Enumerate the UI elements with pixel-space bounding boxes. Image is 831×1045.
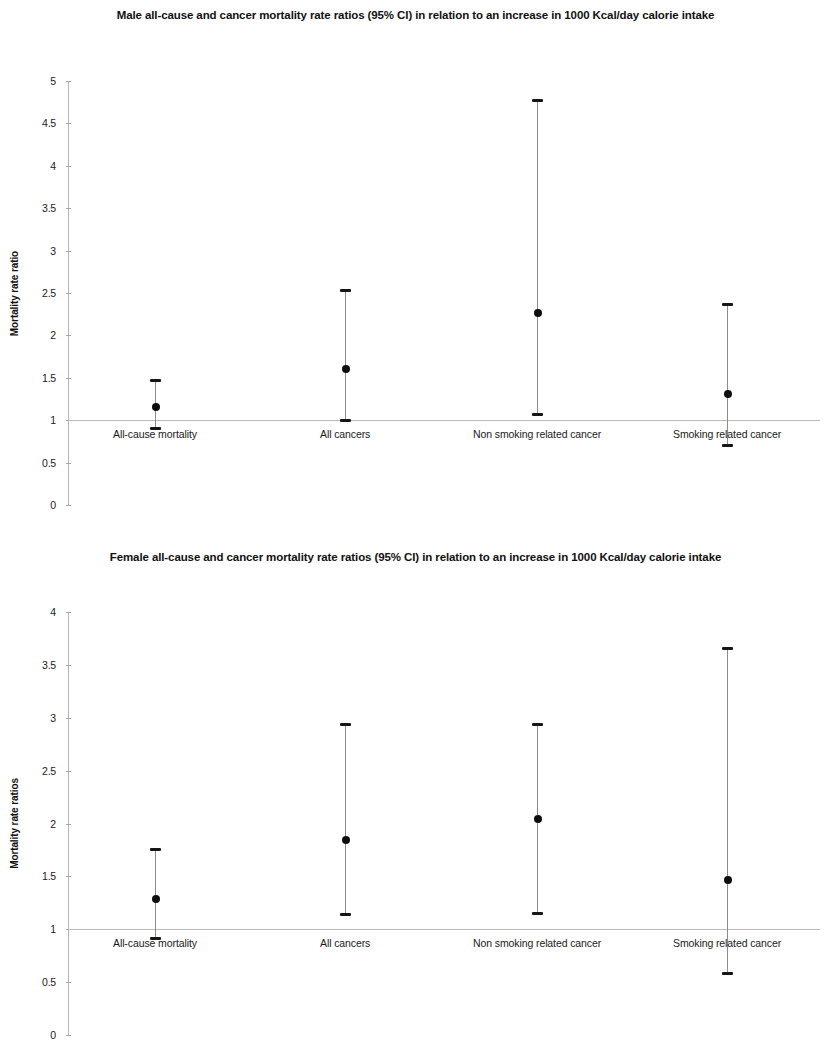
category-label: Non smoking related cancer [473, 937, 601, 949]
y-axis-tick-label: 4 [26, 607, 56, 617]
y-axis-tick-label: 1 [26, 924, 56, 934]
confidence-interval-lower-cap [532, 912, 543, 915]
y-axis-tick-label: 2.5 [26, 766, 56, 776]
y-axis-tick-label: 0.5 [26, 458, 56, 468]
confidence-interval-upper-cap [150, 379, 161, 382]
y-axis-title: Mortality rate ratios [8, 778, 19, 869]
y-axis-tick [66, 378, 71, 379]
point-estimate-marker [724, 390, 732, 398]
y-axis-tick [66, 123, 71, 124]
y-axis-tick-label: 3 [26, 713, 56, 723]
y-axis-tick-label: 3.5 [26, 660, 56, 670]
y-axis-tick [66, 1035, 71, 1036]
confidence-interval-lower-cap [340, 419, 351, 422]
confidence-interval-lower-cap [532, 413, 543, 416]
y-axis-tick [66, 718, 71, 719]
category-label: All cancers [320, 428, 370, 440]
y-axis-tick [66, 335, 71, 336]
y-axis-tick-label: 2 [26, 330, 56, 340]
point-estimate-marker [152, 403, 160, 411]
point-estimate-marker [342, 836, 350, 844]
y-axis-tick [66, 166, 71, 167]
category-label: All cancers [320, 937, 370, 949]
y-axis-title: Mortality rate ratio [9, 250, 20, 335]
point-estimate-marker [152, 895, 160, 903]
confidence-interval-lower-cap [340, 913, 351, 916]
category-label: Non smoking related cancer [473, 428, 601, 440]
y-axis-tick-label: 1.5 [26, 373, 56, 383]
confidence-interval-line [155, 849, 156, 938]
category-label: All-cause mortality [113, 428, 197, 440]
y-axis-tick [66, 982, 71, 983]
category-label: Smoking related cancer [673, 937, 781, 949]
y-axis-tick-label: 3.5 [26, 203, 56, 213]
y-axis-tick-label: 4.5 [26, 118, 56, 128]
y-axis-tick [66, 771, 71, 772]
y-axis-tick [66, 876, 71, 877]
y-axis-tick [66, 824, 71, 825]
female-mortality-chart: Female all-cause and cancer mortality ra… [0, 520, 831, 1045]
y-axis-tick [66, 208, 71, 209]
y-axis-tick [66, 81, 71, 82]
confidence-interval-upper-cap [722, 647, 733, 650]
male-mortality-chart: Male all-cause and cancer mortality rate… [0, 0, 831, 520]
y-axis-tick [66, 251, 71, 252]
confidence-interval-upper-cap [532, 99, 543, 102]
y-axis-tick [66, 293, 71, 294]
reference-line-at-1 [68, 929, 820, 930]
y-axis-tick-label: 0 [26, 500, 56, 510]
confidence-interval-upper-cap [532, 723, 543, 726]
y-axis-tick-label: 1 [26, 415, 56, 425]
y-axis-tick-label: 0.5 [26, 977, 56, 987]
point-estimate-marker [534, 309, 542, 317]
confidence-interval-lower-cap [722, 444, 733, 447]
y-axis-tick-label: 2 [26, 819, 56, 829]
point-estimate-marker [342, 365, 350, 373]
figure-page: Male all-cause and cancer mortality rate… [0, 0, 831, 1045]
male-chart-title: Male all-cause and cancer mortality rate… [60, 6, 771, 25]
confidence-interval-upper-cap [150, 848, 161, 851]
female-chart-title: Female all-cause and cancer mortality ra… [60, 548, 771, 567]
y-axis-tick-label: 1.5 [26, 871, 56, 881]
category-label: Smoking related cancer [673, 428, 781, 440]
y-axis-tick [66, 463, 71, 464]
y-axis-tick-label: 3 [26, 246, 56, 256]
y-axis-tick-label: 5 [26, 76, 56, 86]
confidence-interval-line [727, 304, 728, 445]
confidence-interval-upper-cap [340, 723, 351, 726]
y-axis-tick-label: 0 [26, 1030, 56, 1040]
confidence-interval-line [345, 290, 346, 421]
confidence-interval-line [727, 648, 728, 973]
y-axis-tick [66, 612, 71, 613]
category-label: All-cause mortality [113, 937, 197, 949]
y-axis-tick [66, 505, 71, 506]
point-estimate-marker [534, 815, 542, 823]
point-estimate-marker [724, 876, 732, 884]
y-axis-tick-label: 2.5 [26, 288, 56, 298]
confidence-interval-upper-cap [340, 289, 351, 292]
confidence-interval-lower-cap [722, 972, 733, 975]
confidence-interval-line [345, 724, 346, 914]
reference-line-at-1 [68, 420, 820, 421]
y-axis-tick [66, 665, 71, 666]
y-axis-tick-label: 4 [26, 161, 56, 171]
confidence-interval-upper-cap [722, 303, 733, 306]
confidence-interval-line [537, 100, 538, 415]
